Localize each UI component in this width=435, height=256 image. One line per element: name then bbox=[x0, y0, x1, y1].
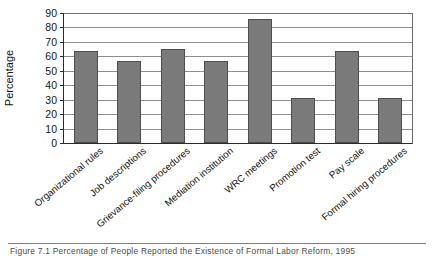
bar-series bbox=[64, 13, 412, 143]
y-axis-tick-label: 80 bbox=[45, 22, 57, 33]
y-axis-tick-label: 70 bbox=[45, 37, 57, 48]
y-axis-tick-label: 0 bbox=[51, 138, 57, 149]
y-axis-tick-label: 20 bbox=[45, 109, 57, 120]
y-axis-tick-label: 40 bbox=[45, 80, 57, 91]
y-axis-tick-mark bbox=[60, 143, 64, 144]
y-axis-tick-label: 50 bbox=[45, 66, 57, 77]
y-axis-tick-label: 10 bbox=[45, 123, 57, 134]
bar bbox=[74, 51, 98, 143]
y-axis-tick-label: 90 bbox=[45, 8, 57, 19]
figure-caption: Figure 7.1 Percentage of People Reported… bbox=[10, 246, 430, 256]
y-axis-title: Percentage bbox=[3, 50, 15, 106]
caption-divider bbox=[8, 243, 426, 244]
x-axis-category-labels: Organizational rulesJob descriptionsGrie… bbox=[63, 145, 411, 240]
y-axis-tick-label: 30 bbox=[45, 94, 57, 105]
y-axis-tick-label: 60 bbox=[45, 51, 57, 62]
bar-slot bbox=[64, 13, 108, 143]
plot-area: 9080706050403020100 bbox=[63, 13, 413, 144]
